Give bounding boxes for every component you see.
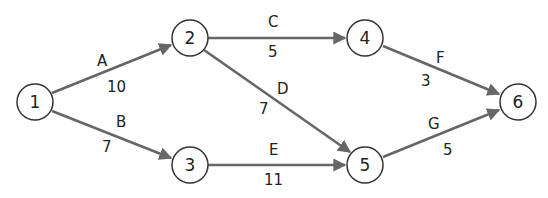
node-6: 6 bbox=[500, 84, 536, 120]
node-3: 3 bbox=[172, 147, 208, 183]
edge-E-duration: 11 bbox=[264, 171, 283, 189]
edge-G-activity: G bbox=[428, 115, 440, 133]
edge-B-activity: B bbox=[116, 113, 126, 131]
edge-D bbox=[204, 50, 350, 152]
node-1: 1 bbox=[17, 84, 53, 120]
node-2: 2 bbox=[172, 20, 208, 56]
node-5: 5 bbox=[347, 147, 383, 183]
edge-F-activity: F bbox=[436, 49, 445, 67]
edge-A-duration: 10 bbox=[107, 78, 126, 96]
edge-C-duration: 5 bbox=[268, 43, 278, 61]
node-4-label: 4 bbox=[360, 28, 371, 48]
edge-F-duration: 3 bbox=[421, 72, 431, 90]
network-diagram: A 10 B 7 C 5 D 7 E 11 F 3 G 5 1 2 3 4 5 … bbox=[0, 0, 548, 198]
node-2-label: 2 bbox=[185, 28, 196, 48]
node-4: 4 bbox=[347, 20, 383, 56]
edge-E-activity: E bbox=[269, 141, 278, 159]
edge-B-duration: 7 bbox=[102, 138, 112, 156]
edge-G bbox=[383, 110, 499, 157]
node-3-label: 3 bbox=[185, 155, 196, 175]
node-6-label: 6 bbox=[513, 92, 524, 112]
edge-C-activity: C bbox=[268, 13, 278, 31]
edge-G-duration: 5 bbox=[443, 141, 453, 159]
edge-A-activity: A bbox=[97, 52, 108, 70]
node-1-label: 1 bbox=[30, 92, 41, 112]
node-5-label: 5 bbox=[360, 155, 371, 175]
edge-D-duration: 7 bbox=[259, 100, 269, 118]
edge-D-activity: D bbox=[277, 80, 289, 98]
